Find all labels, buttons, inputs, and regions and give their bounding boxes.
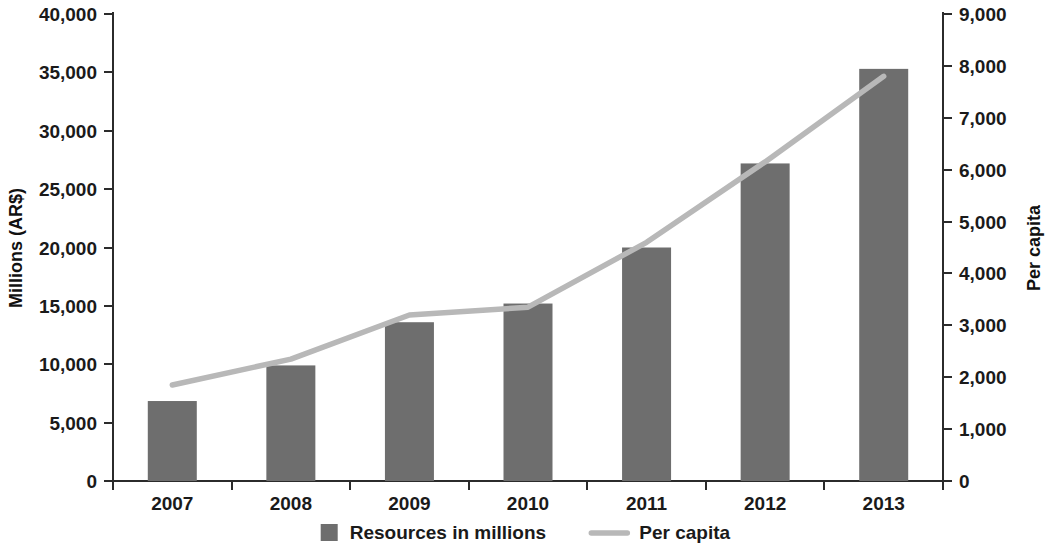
y-axis-right-tick-label: 7,000 [959,108,1007,129]
y-axis-left-tick-label: 15,000 [39,296,97,317]
bar-line-combo-chart: Millions (AR$) Per capita 05,00010,00015… [0,0,1055,547]
y-axis-right-tick-label: 5,000 [959,212,1007,233]
y-axis-left-tick-label: 20,000 [39,238,97,259]
y-axis-right-tick-label: 1,000 [959,419,1007,440]
y-axis-left-tick-label: 5,000 [49,413,97,434]
bar [741,163,790,481]
chart-legend: Resources in millionsPer capita [321,522,731,543]
x-axis-category-label: 2007 [151,493,193,514]
y-axis-right-tick-label: 9,000 [959,4,1007,25]
y-axis-left-title: Millions (AR$) [6,188,26,308]
y-axis-right-tick-label: 4,000 [959,263,1007,284]
y-axis-left-tick-label: 25,000 [39,179,97,200]
y-axis-right-tick-label: 2,000 [959,367,1007,388]
x-axis-category-label: 2013 [863,493,905,514]
y-axis-right-title: Per capita [1024,204,1044,291]
y-axis-left-tick-label: 40,000 [39,4,97,25]
y-axis-left-tick-label: 10,000 [39,354,97,375]
x-axis-ticks [113,481,943,490]
y-axis-left-ticks: 05,00010,00015,00020,00025,00030,00035,0… [39,4,113,492]
y-axis-right-tick-label: 3,000 [959,315,1007,336]
x-axis-category-label: 2009 [388,493,430,514]
bar [622,248,671,482]
x-axis-category-label: 2012 [744,493,786,514]
bar-series-resources-in-millions [148,69,908,481]
x-axis-category-label: 2011 [626,493,668,514]
bar [266,365,315,481]
x-axis-category-label: 2008 [270,493,312,514]
y-axis-left-tick-label: 0 [86,471,97,492]
bar [148,401,197,481]
chart-container: Millions (AR$) Per capita 05,00010,00015… [0,0,1055,547]
bar [385,322,434,481]
y-axis-right-tick-label: 0 [959,471,970,492]
y-axis-right-tick-label: 6,000 [959,160,1007,181]
legend-swatch-square [321,524,338,541]
y-axis-right-tick-label: 8,000 [959,56,1007,77]
legend-item-label: Per capita [639,522,730,543]
x-axis-category-labels: 2007200820092010201120122013 [151,493,905,514]
x-axis-category-label: 2010 [507,493,549,514]
bar [859,69,908,481]
y-axis-left-tick-label: 35,000 [39,62,97,83]
y-axis-right-ticks: 01,0002,0003,0004,0005,0006,0007,0008,00… [943,4,1007,492]
y-axis-left-tick-label: 30,000 [39,121,97,142]
bar [504,304,553,481]
legend-item-label: Resources in millions [350,522,546,543]
